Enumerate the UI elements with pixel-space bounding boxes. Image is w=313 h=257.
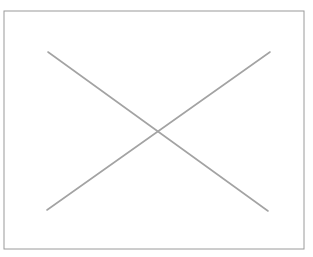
broken-image-placeholder bbox=[0, 0, 313, 257]
placeholder-frame bbox=[4, 11, 304, 249]
placeholder-canvas bbox=[0, 0, 313, 257]
